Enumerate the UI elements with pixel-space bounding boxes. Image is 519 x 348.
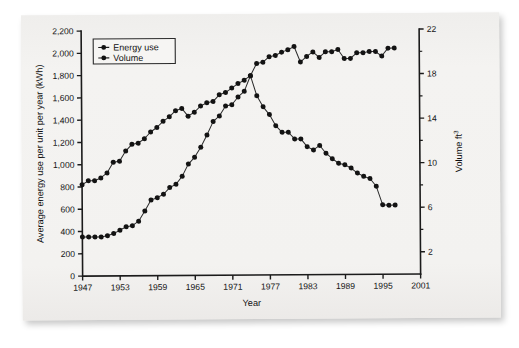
data-point bbox=[254, 93, 259, 98]
data-point bbox=[248, 73, 253, 78]
data-point bbox=[123, 149, 128, 154]
x-tick-label: 1971 bbox=[223, 282, 242, 292]
data-point bbox=[317, 55, 322, 60]
data-point bbox=[273, 53, 278, 58]
y-tick-label: 1,400 bbox=[53, 115, 75, 125]
data-point bbox=[286, 130, 291, 135]
y2-tick-label: 10 bbox=[427, 158, 437, 168]
data-point bbox=[136, 219, 141, 224]
data-point bbox=[136, 141, 141, 146]
data-point bbox=[360, 50, 365, 55]
data-point bbox=[98, 175, 103, 180]
data-point bbox=[211, 119, 216, 124]
data-point bbox=[373, 49, 378, 54]
x-tick-label: 2001 bbox=[411, 280, 430, 290]
data-point bbox=[323, 49, 328, 54]
data-point bbox=[142, 136, 147, 141]
y2-tick-label: 22 bbox=[427, 24, 437, 34]
y-tick-label: 2,200 bbox=[52, 26, 74, 36]
legend-label-1: Volume bbox=[113, 53, 143, 63]
data-point bbox=[204, 132, 209, 137]
data-point bbox=[86, 178, 91, 183]
left-and-bottom-spine bbox=[81, 29, 420, 276]
legend-swatch-marker-0 bbox=[101, 45, 106, 50]
data-point bbox=[179, 106, 184, 111]
data-point bbox=[342, 162, 347, 167]
data-point bbox=[142, 209, 147, 214]
data-point bbox=[317, 143, 322, 148]
y-tick-label: 400 bbox=[60, 227, 75, 237]
data-point bbox=[161, 192, 166, 197]
data-point bbox=[349, 166, 354, 171]
y-tick-label: 200 bbox=[61, 249, 76, 259]
x-tick-label: 1965 bbox=[186, 282, 205, 292]
data-point bbox=[261, 104, 266, 109]
data-point bbox=[129, 142, 134, 147]
x-axis-title: Year bbox=[242, 298, 261, 308]
y-tick-label: 1,000 bbox=[53, 160, 75, 170]
chart-axis-titles: Average energy use per unit per year (kW… bbox=[34, 62, 464, 309]
data-point bbox=[367, 176, 372, 181]
x-tick-label: 1953 bbox=[111, 282, 130, 292]
y-tick-label: 1,200 bbox=[53, 138, 75, 148]
data-point bbox=[167, 114, 172, 119]
data-point bbox=[155, 195, 160, 200]
data-point bbox=[311, 147, 316, 152]
data-point bbox=[330, 156, 335, 161]
data-point bbox=[167, 185, 172, 190]
data-point bbox=[186, 114, 191, 119]
data-point bbox=[210, 99, 215, 104]
data-point bbox=[130, 223, 135, 228]
x-tick-label: 1959 bbox=[148, 282, 167, 292]
x-tick-label: 1995 bbox=[374, 281, 393, 291]
data-point bbox=[192, 110, 197, 115]
data-point bbox=[117, 228, 122, 233]
data-point bbox=[148, 129, 153, 134]
y-tick-label: 800 bbox=[60, 182, 75, 192]
data-point bbox=[380, 202, 385, 207]
data-point bbox=[92, 178, 97, 183]
legend-swatch-marker-1 bbox=[101, 56, 106, 61]
data-point bbox=[86, 235, 91, 240]
data-point bbox=[267, 54, 272, 59]
data-point bbox=[229, 102, 234, 107]
data-point bbox=[235, 81, 240, 86]
data-point bbox=[374, 184, 379, 189]
data-point bbox=[355, 171, 360, 176]
x-tick-label: 1977 bbox=[261, 281, 280, 291]
y2-tick-label: 14 bbox=[427, 113, 437, 123]
chart-legend[interactable]: Energy useVolume bbox=[93, 39, 175, 65]
data-point bbox=[329, 49, 334, 54]
series-energy-use bbox=[79, 72, 398, 209]
y2-axis-title: Volume ft3 bbox=[452, 130, 464, 172]
data-point bbox=[386, 203, 391, 208]
data-point bbox=[117, 159, 122, 164]
data-point bbox=[198, 104, 203, 109]
data-point bbox=[105, 170, 110, 175]
energy-use-volume-chart: 02004006008001,0001,2001,4001,6001,8002,… bbox=[0, 0, 519, 348]
data-point bbox=[242, 78, 247, 83]
data-point bbox=[273, 123, 278, 128]
data-point bbox=[111, 231, 116, 236]
data-point bbox=[173, 108, 178, 113]
data-point bbox=[235, 94, 240, 99]
data-point bbox=[342, 56, 347, 61]
data-point bbox=[379, 53, 384, 58]
y-tick-label: 2,000 bbox=[52, 49, 74, 59]
data-point bbox=[392, 46, 397, 51]
y2-tick-label: 2 bbox=[428, 247, 433, 257]
data-point bbox=[173, 182, 178, 187]
data-point bbox=[229, 86, 234, 91]
data-point bbox=[192, 155, 197, 160]
y-tick-label: 1,800 bbox=[52, 71, 74, 81]
x-tick-label: 1989 bbox=[336, 281, 355, 291]
data-point bbox=[148, 197, 153, 202]
data-point bbox=[217, 113, 222, 118]
data-point bbox=[354, 50, 359, 55]
data-point bbox=[298, 136, 303, 141]
data-point bbox=[154, 125, 159, 130]
data-point bbox=[298, 60, 303, 65]
data-point bbox=[285, 47, 290, 52]
data-point bbox=[393, 203, 398, 208]
data-point bbox=[292, 44, 297, 49]
